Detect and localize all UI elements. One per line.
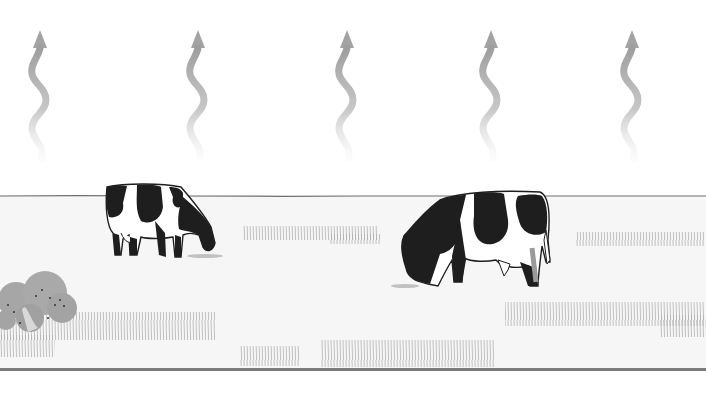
rising-arrows (32, 30, 639, 158)
pasture-scene (0, 0, 706, 395)
pasture-illustration (0, 0, 706, 395)
ground-line (0, 368, 706, 371)
